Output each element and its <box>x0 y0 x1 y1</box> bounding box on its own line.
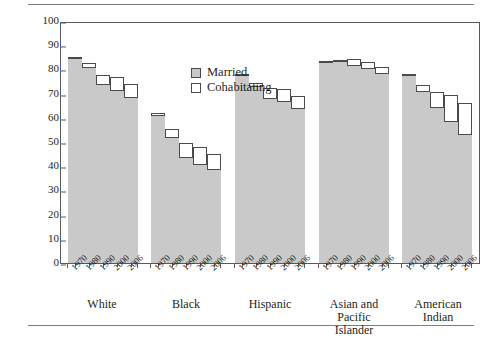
chart-plot-area: Percentage Married or Cohabiting 1009080… <box>60 22 480 264</box>
group-label-american-indian: AmericanIndian <box>396 298 480 337</box>
bar-segment-married[interactable] <box>402 75 416 263</box>
bar-segment-cohabitating[interactable] <box>361 62 375 263</box>
bar-segment-married[interactable] <box>207 169 221 263</box>
bar-column[interactable] <box>444 23 458 263</box>
y-axis-tick-label: 90 <box>48 39 59 50</box>
bar-segment-cohabitating[interactable] <box>249 83 263 263</box>
group-label-line: Indian <box>396 311 480 324</box>
bar-segment-cohabitating[interactable] <box>319 61 333 263</box>
bar-groups-container <box>61 23 479 263</box>
bar-column[interactable] <box>361 23 375 263</box>
bar-segment-cohabitating[interactable] <box>430 92 444 263</box>
bar-column[interactable] <box>151 23 165 263</box>
y-axis-tick-label: 0 <box>54 257 60 268</box>
bar-segment-married[interactable] <box>375 73 389 263</box>
y-axis-tick-label: 60 <box>48 111 59 122</box>
bar-segment-cohabitating[interactable] <box>110 77 124 263</box>
bar-column[interactable] <box>291 23 305 263</box>
group-label-line: Hispanic <box>228 298 312 311</box>
bar-segment-married[interactable] <box>361 68 375 263</box>
bar-segment-married[interactable] <box>458 134 472 263</box>
bar-segment-married[interactable] <box>249 86 263 263</box>
bar-segment-married[interactable] <box>235 75 249 263</box>
bar-segment-cohabitating[interactable] <box>68 57 82 263</box>
bar-segment-cohabitating[interactable] <box>347 59 361 263</box>
bar-segment-married[interactable] <box>430 107 444 263</box>
bar-segment-married[interactable] <box>96 84 110 263</box>
bar-segment-cohabitating[interactable] <box>291 96 305 263</box>
y-axis-tick-label: 30 <box>48 184 59 195</box>
bar-segment-married[interactable] <box>319 62 333 263</box>
bar-segment-cohabitating[interactable] <box>151 113 165 263</box>
bar-segment-married[interactable] <box>347 65 361 263</box>
bar-column[interactable] <box>207 23 221 263</box>
bar-group-american-indian <box>402 23 472 263</box>
bar-column[interactable] <box>110 23 124 263</box>
top-horizontal-rule <box>28 4 474 5</box>
bar-column[interactable] <box>179 23 193 263</box>
bar-segment-married[interactable] <box>165 137 179 263</box>
bar-segment-married[interactable] <box>291 108 305 263</box>
bar-segment-married[interactable] <box>263 98 277 263</box>
bar-segment-cohabitating[interactable] <box>82 63 96 263</box>
bar-segment-cohabitating[interactable] <box>96 75 110 263</box>
bar-segment-cohabitating[interactable] <box>458 103 472 263</box>
bar-segment-cohabitating[interactable] <box>444 95 458 263</box>
bar-segment-cohabitating[interactable] <box>263 88 277 263</box>
bar-segment-married[interactable] <box>193 164 207 263</box>
bar-column[interactable] <box>333 23 347 263</box>
bar-column[interactable] <box>124 23 138 263</box>
bar-segment-cohabitating[interactable] <box>179 143 193 263</box>
legend-swatch-cohab <box>191 83 201 93</box>
legend-item[interactable]: Cohabitating <box>191 80 272 95</box>
group-label-black: Black <box>144 298 228 337</box>
bar-segment-married[interactable] <box>124 97 138 263</box>
bar-segment-cohabitating[interactable] <box>193 147 207 263</box>
bar-column[interactable] <box>458 23 472 263</box>
bar-column[interactable] <box>319 23 333 263</box>
bar-column[interactable] <box>375 23 389 263</box>
bar-segment-cohabitating[interactable] <box>375 67 389 263</box>
chart-legend: MarriedCohabitating <box>191 65 272 95</box>
bar-segment-married[interactable] <box>444 121 458 263</box>
bar-group-hispanic <box>235 23 305 263</box>
bar-segment-married[interactable] <box>82 67 96 263</box>
bar-segment-married[interactable] <box>333 61 347 263</box>
x-axis-group-labels: WhiteBlackHispanicAsian and PacificIslan… <box>60 298 480 337</box>
bar-column[interactable] <box>96 23 110 263</box>
bar-segment-cohabitating[interactable] <box>333 60 347 263</box>
bar-column[interactable] <box>235 23 249 263</box>
legend-swatch-married <box>191 68 201 78</box>
bar-column[interactable] <box>68 23 82 263</box>
bar-segment-married[interactable] <box>110 90 124 263</box>
bar-column[interactable] <box>193 23 207 263</box>
bar-segment-cohabitating[interactable] <box>402 74 416 263</box>
bar-segment-married[interactable] <box>179 157 193 263</box>
group-label-line: White <box>60 298 144 311</box>
bar-column[interactable] <box>416 23 430 263</box>
bar-segment-married[interactable] <box>277 101 291 263</box>
bar-column[interactable] <box>277 23 291 263</box>
bar-segment-cohabitating[interactable] <box>165 129 179 263</box>
legend-label: Cohabitating <box>207 80 272 95</box>
bar-column[interactable] <box>82 23 96 263</box>
bar-column[interactable] <box>249 23 263 263</box>
group-label-white: White <box>60 298 144 337</box>
bar-segment-cohabitating[interactable] <box>124 84 138 263</box>
bar-column[interactable] <box>263 23 277 263</box>
group-label-line: Islander <box>312 324 396 337</box>
bar-segment-cohabitating[interactable] <box>207 154 221 263</box>
bar-segment-cohabitating[interactable] <box>416 85 430 263</box>
legend-item[interactable]: Married <box>191 65 272 80</box>
bar-column[interactable] <box>430 23 444 263</box>
group-label-line: Asian and Pacific <box>312 298 396 324</box>
bar-column[interactable] <box>347 23 361 263</box>
bar-segment-cohabitating[interactable] <box>235 74 249 263</box>
group-label-line: Black <box>144 298 228 311</box>
bar-segment-married[interactable] <box>416 91 430 263</box>
bar-column[interactable] <box>165 23 179 263</box>
bar-segment-cohabitating[interactable] <box>277 89 291 263</box>
bar-column[interactable] <box>402 23 416 263</box>
bar-segment-married[interactable] <box>68 58 82 263</box>
bar-segment-married[interactable] <box>151 115 165 263</box>
